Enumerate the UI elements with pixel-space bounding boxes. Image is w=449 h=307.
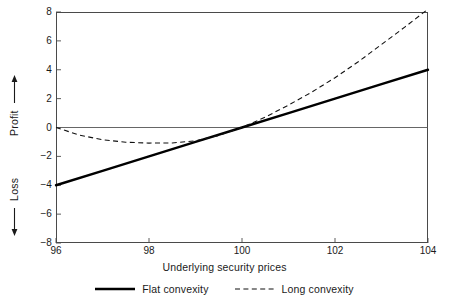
y-axis-title-loss-label: Loss [8, 178, 20, 201]
legend-item-label: Flat convexity [142, 283, 208, 295]
x-axis-tick-label: 104 [408, 246, 448, 256]
legend-item[interactable]: Long convexity [235, 283, 354, 295]
x-axis-title: Underlying security prices [0, 261, 449, 273]
chart-root: 86420−2−4−6−8 Profit Loss 9698100102104 [0, 0, 449, 307]
x-axis-tick-label: 96 [36, 246, 76, 256]
y-axis-title-profit: Profit [8, 75, 20, 136]
legend-swatch-solid-line [95, 284, 135, 294]
chart-legend: Flat convexityLong convexity [0, 283, 449, 295]
legend-item-label: Long convexity [282, 283, 354, 295]
y-axis-tick-label: 6 [30, 36, 52, 46]
up-arrow-icon [8, 75, 20, 103]
y-axis-tick-label: −6 [30, 209, 52, 219]
x-axis-tick-label: 102 [315, 246, 355, 256]
legend-item[interactable]: Flat convexity [95, 283, 208, 295]
plot-area-frame [56, 12, 428, 243]
y-axis-title-profit-label: Profit [8, 110, 20, 136]
y-axis-title-loss: Loss [8, 178, 20, 236]
legend-swatch-dashed-line [235, 284, 275, 294]
y-axis-title: Profit Loss [0, 48, 66, 208]
x-axis-tick-label: 98 [129, 246, 169, 256]
y-axis-tick-label: 8 [30, 7, 52, 17]
x-axis-tick-label: 100 [222, 246, 262, 256]
down-arrow-icon [8, 208, 20, 236]
